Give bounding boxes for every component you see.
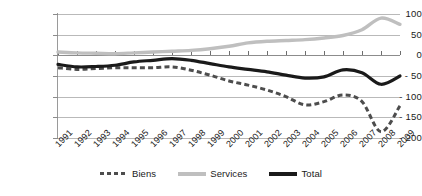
legend-label-biens: Biens	[132, 168, 156, 179]
legend-label-total: Total	[301, 168, 322, 179]
legend-item-total: Total	[269, 168, 322, 179]
series-line-biens	[58, 67, 400, 132]
chart-container: 100500- 50- 100- 150- 200 19911992199319…	[0, 0, 422, 196]
chart-legend: Biens Services Total	[0, 168, 422, 179]
legend-swatch-total-icon	[269, 172, 297, 176]
legend-swatch-services-icon	[178, 172, 206, 176]
series-line-services	[58, 18, 400, 54]
legend-swatch-biens-icon	[100, 172, 128, 175]
legend-label-services: Services	[210, 168, 247, 179]
series-plot	[0, 0, 422, 196]
legend-item-services: Services	[178, 168, 247, 179]
legend-item-biens: Biens	[100, 168, 156, 179]
